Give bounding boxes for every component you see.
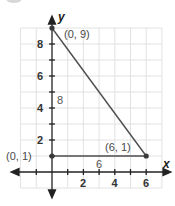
y-tick-6: 6	[37, 70, 43, 82]
x-tick-6: 6	[143, 177, 149, 189]
y-tick-8: 8	[37, 38, 43, 50]
x-tick-2: 2	[80, 177, 86, 189]
y-tick-4: 4	[37, 102, 44, 114]
coordinate-plane: y x 8 6 4 2 2 4 6 (0, 9) (6, 1) (0, 1) 8…	[0, 0, 175, 206]
x-axis	[11, 169, 171, 176]
y-axis	[49, 16, 56, 198]
point-0-1	[49, 153, 54, 158]
y-axis-label: y	[57, 10, 66, 24]
y-axis-down-arrow-icon	[49, 190, 56, 198]
point-0-9	[49, 25, 54, 30]
y-tick-2: 2	[37, 134, 43, 146]
horizontal-length-label: 6	[96, 158, 102, 170]
label-point-0-9: (0, 9)	[64, 28, 90, 40]
label-point-6-1: (6, 1)	[105, 141, 131, 153]
vertical-length-label: 8	[57, 94, 63, 106]
x-tick-4: 4	[112, 177, 119, 189]
label-point-0-1: (0, 1)	[6, 150, 32, 162]
x-axis-left-arrow-icon	[11, 169, 19, 176]
y-axis-up-arrow-icon	[49, 16, 56, 24]
point-6-1	[144, 153, 149, 158]
x-axis-label: x	[162, 157, 171, 171]
